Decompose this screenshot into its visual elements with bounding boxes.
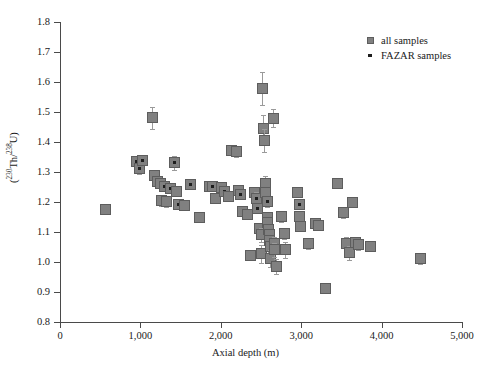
error-bar [256, 192, 257, 204]
data-point [338, 233, 354, 254]
data-point [182, 176, 198, 194]
data-point [243, 247, 259, 265]
error-bar [157, 177, 158, 186]
error-bar-cap-bottom [418, 264, 423, 265]
error-bar [273, 109, 274, 127]
error-bar [420, 253, 421, 264]
y-tick-label: 1.7 [0, 47, 50, 57]
marker-square [271, 261, 282, 272]
error-bar-cap-top [353, 237, 358, 238]
error-bar [231, 147, 232, 155]
x-tick-label: 4,000 [352, 330, 412, 342]
error-bar-cap-top [268, 250, 273, 251]
error-bar-cap-top [219, 183, 224, 184]
error-bar-cap-top [368, 242, 373, 243]
marker-square [173, 199, 184, 210]
error-bar-cap-top [274, 259, 279, 260]
error-bar [308, 238, 309, 249]
error-bar [228, 192, 229, 202]
error-bar-cap-bottom [344, 251, 349, 252]
error-bar [224, 187, 225, 195]
x-axis-title: Axial depth (m) [0, 347, 491, 358]
error-bar-cap-bottom [229, 155, 234, 156]
error-bar-cap-bottom [197, 222, 202, 223]
error-bar-cap-bottom [162, 190, 167, 191]
error-bar-cap-bottom [236, 194, 241, 195]
marker-square [279, 228, 290, 239]
error-bar [265, 188, 266, 198]
error-bar-cap-bottom [306, 249, 311, 250]
error-bar-cap-bottom [295, 197, 300, 198]
error-bar-cap-bottom [238, 199, 243, 200]
marker-square [263, 224, 274, 235]
data-point [362, 238, 378, 256]
marker-square [155, 178, 166, 189]
marker-square [276, 211, 287, 222]
marker-square [260, 187, 271, 198]
error-bar-cap-bottom [234, 157, 239, 158]
plot-data-area [60, 22, 462, 322]
marker-square [292, 187, 303, 198]
error-bar [161, 195, 162, 206]
data-point [276, 224, 292, 243]
marker-square [165, 183, 176, 194]
error-bar [346, 237, 347, 250]
marker-square [254, 223, 265, 234]
error-bar [261, 245, 262, 263]
error-bar-cap-bottom [252, 197, 257, 198]
error-bar-cap-top [306, 238, 311, 239]
error-bar-cap-top [265, 218, 270, 219]
marker-square [223, 191, 234, 202]
error-bar [236, 146, 237, 157]
error-bar-cap-bottom [152, 180, 157, 181]
data-point [223, 143, 239, 159]
data-point [261, 232, 277, 251]
error-bar-cap-bottom [174, 196, 179, 197]
error-bar-cap-top [261, 115, 266, 116]
error-bar [265, 176, 266, 192]
data-point [201, 177, 217, 195]
marker-square [131, 156, 142, 167]
data-point [163, 180, 179, 198]
marker-square [100, 204, 111, 215]
marker-square [147, 112, 158, 123]
error-bar [178, 200, 179, 208]
error-bar-cap-top [137, 164, 142, 165]
data-point [255, 111, 271, 146]
data-point [291, 196, 307, 212]
error-bar-cap-top [323, 284, 328, 285]
marker-square [169, 157, 180, 168]
error-bar [325, 284, 326, 292]
data-point [253, 224, 269, 246]
marker-square [235, 189, 246, 200]
error-bar-cap-top [313, 219, 318, 220]
marker-square [262, 212, 273, 223]
marker-square [280, 244, 291, 255]
y-tick-label: 1.8 [0, 17, 50, 27]
marker-square [260, 178, 271, 189]
data-point [251, 219, 267, 238]
data-point [250, 200, 266, 216]
marker-square [242, 209, 253, 220]
marker-square [353, 239, 364, 250]
error-bar [276, 259, 277, 275]
marker-square [264, 235, 275, 246]
error-bar-cap-top [282, 228, 287, 229]
data-point [261, 227, 277, 243]
error-bar-cap-top [279, 212, 284, 213]
data-point [300, 234, 316, 253]
marker-square [256, 229, 267, 240]
error-bar-cap-top [240, 207, 245, 208]
data-point [317, 280, 333, 296]
error-bar [164, 182, 165, 190]
error-bar [315, 219, 316, 227]
error-bar [274, 237, 275, 249]
data-point [157, 178, 173, 194]
error-bar-cap-top [257, 223, 262, 224]
error-bar-cap-bottom [257, 234, 262, 235]
data-point [413, 249, 429, 268]
error-bar [139, 164, 140, 174]
marker-square [338, 207, 349, 218]
error-bar-cap-bottom [245, 219, 250, 220]
data-point [235, 203, 251, 219]
